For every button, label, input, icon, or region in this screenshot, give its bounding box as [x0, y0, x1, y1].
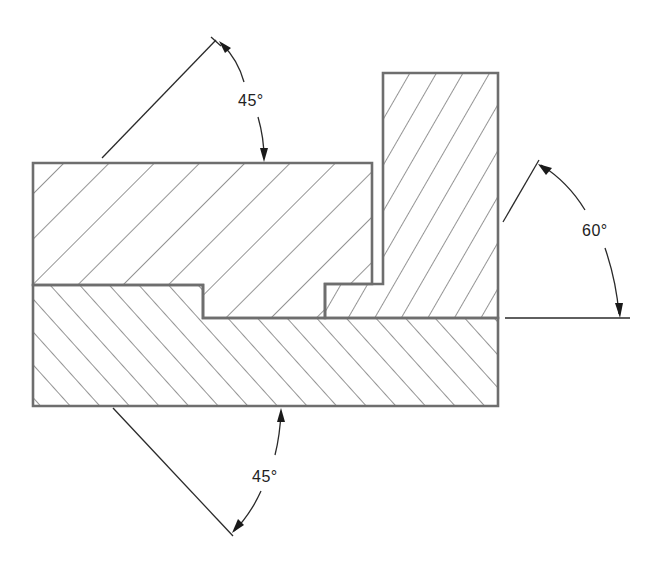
top-angle-label: 45° [238, 92, 264, 110]
arrowhead-icon [615, 303, 623, 318]
extension-line [503, 160, 539, 222]
right-angle-label: 60° [582, 222, 608, 240]
extension-line [113, 408, 233, 536]
arrowhead-icon [277, 408, 285, 422]
extension-line [102, 40, 216, 158]
right-angle-dimension [503, 160, 630, 318]
section-drawing [0, 0, 662, 562]
arrowhead-icon [538, 164, 552, 175]
bottom-angle-label: 45° [252, 468, 278, 486]
arrowhead-icon [260, 148, 268, 162]
